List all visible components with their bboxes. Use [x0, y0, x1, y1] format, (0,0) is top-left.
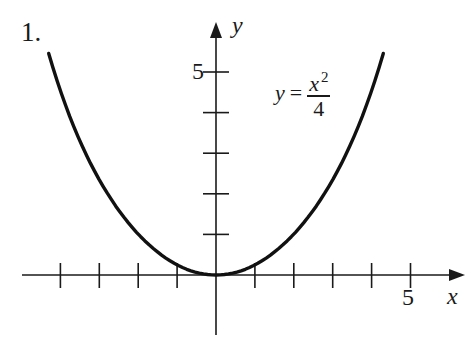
problem-number: 1. [21, 17, 41, 48]
y-axis-label: y [232, 12, 243, 39]
x-axis-label: x [447, 283, 458, 310]
numerator-exponent: 2 [321, 69, 329, 85]
x-axis-arrow-icon [449, 269, 465, 281]
equation-numerator: x2 [307, 66, 330, 95]
equation-equals: = [290, 80, 302, 106]
x-tick-label-5: 5 [402, 284, 414, 311]
axes [22, 36, 452, 335]
equation-lhs: y [275, 80, 285, 106]
numerator-variable: x [309, 71, 319, 96]
equation-annotation: y = x2 4 [275, 66, 330, 121]
y-tick-label-5: 5 [192, 58, 204, 85]
y-axis-arrow-icon [210, 22, 222, 38]
equation-fraction: x2 4 [307, 66, 330, 121]
equation-denominator: 4 [313, 97, 324, 121]
